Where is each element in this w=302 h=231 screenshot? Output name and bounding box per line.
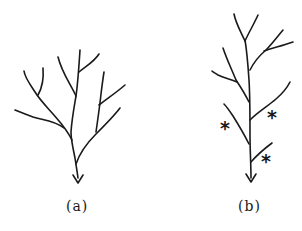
tree-a — [15, 50, 125, 183]
figure: * * * (a) (b) — [0, 0, 302, 231]
asterisk-marker-right-lower: * — [261, 152, 271, 171]
tree-a-top-right-twig — [79, 54, 99, 72]
asterisk-marker-left: * — [220, 119, 230, 138]
tree-a-right-upper-twig — [99, 85, 125, 105]
tree-a-left-sub-twig — [38, 68, 43, 95]
tree-b-top-left-twig — [234, 14, 245, 41]
tree-a-left-branch — [24, 71, 72, 140]
tree-a-center-left-twig — [58, 57, 76, 96]
tree-b — [212, 14, 293, 182]
tree-b-top-right-twig — [245, 15, 258, 41]
tree-b-trunk — [245, 40, 251, 178]
asterisk-marker-right-mid: * — [267, 108, 277, 127]
panel-label-b: (b) — [238, 198, 261, 214]
panel-label-a: (a) — [66, 198, 88, 214]
tree-diagrams-svg — [0, 0, 302, 231]
tree-b-left-branch — [223, 48, 249, 102]
